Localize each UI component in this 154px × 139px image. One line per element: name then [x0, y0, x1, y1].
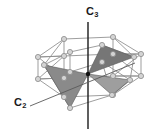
central-atom [86, 72, 90, 76]
vertex-atom [61, 53, 66, 58]
vertex-atom [138, 51, 143, 56]
vertex-atom [110, 34, 115, 39]
c2-label-text: C [14, 96, 22, 108]
vertex-atom [110, 73, 115, 78]
vertex-atom [67, 105, 72, 110]
vertex-atom [99, 42, 104, 47]
vertex-atom [35, 54, 40, 59]
vertex-atom [61, 94, 66, 99]
c2-axis-label: C2 [14, 97, 26, 108]
vertex-atom [61, 36, 66, 41]
c2-label-subscript: 2 [22, 101, 26, 110]
vertex-atom [138, 73, 143, 78]
vertex-atom [109, 92, 114, 97]
vertex-atom [127, 77, 132, 82]
c3-axis-label: C3 [86, 6, 98, 17]
vertex-atom [110, 51, 115, 56]
vertex-atom [67, 49, 72, 54]
c3-label-text: C [86, 5, 94, 17]
c3-label-subscript: 3 [94, 10, 98, 19]
vertex-atom [67, 69, 72, 74]
molecule-symmetry-figure: C3 C2 [0, 0, 154, 139]
vertex-atom [35, 76, 40, 81]
vertex-atom [131, 54, 136, 59]
molecule-diagram-svg [0, 0, 154, 139]
vertex-atom [99, 59, 104, 64]
vertex-atom [41, 62, 46, 67]
vertex-atom [61, 75, 66, 80]
